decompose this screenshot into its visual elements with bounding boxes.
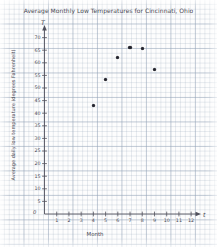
x-tick-label: 4 [88,218,98,223]
y-axis-arrow [42,25,47,31]
y-tick-label: 55 [19,73,41,78]
y-tick-label: 60 [19,60,41,65]
data-point [153,68,156,71]
y-tick-label: 20 [19,161,41,166]
x-tick-label: 9 [149,218,159,223]
x-tick-label: 3 [76,218,86,223]
x-tick-label: 2 [64,218,74,223]
y-tick-label: 35 [19,123,41,128]
x-tick-label: 11 [174,218,184,223]
x-tick-label: 8 [137,218,147,223]
x-tick-label: 7 [125,218,135,223]
y-tick-label: 25 [19,148,41,153]
y-tick-label: 10 [19,186,41,191]
data-point [128,46,131,49]
y-tick-label: 45 [19,98,41,103]
x-axis-arrow [196,212,202,217]
y-tick-label: 30 [19,136,41,141]
x-tick-label: 10 [162,218,172,223]
scatter-chart: Average Monthly Low Temperatures for Cin… [0,0,217,247]
y-tick-label: 40 [19,111,41,116]
data-point [104,78,107,81]
x-tick-label: 5 [101,218,111,223]
y-tick-label: 70 [19,35,41,40]
y-tick-label: 50 [19,85,41,90]
y-tick-label: 15 [19,174,41,179]
y-tick-label: 65 [19,48,41,53]
x-tick-label: 6 [113,218,123,223]
x-tick-label: 1 [52,218,62,223]
y-tick-label: 5 [19,199,41,204]
x-tick-label: 12 [186,218,196,223]
